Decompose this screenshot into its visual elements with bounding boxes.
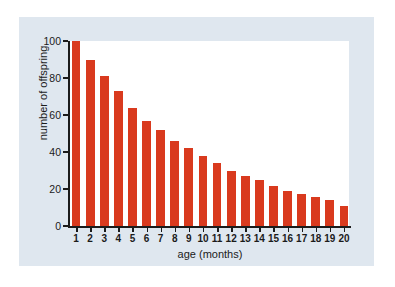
y-axis-tick — [63, 188, 68, 190]
x-axis-title: age (months) — [69, 248, 351, 260]
bar — [297, 194, 306, 226]
bar — [255, 180, 264, 226]
bar — [199, 156, 208, 226]
bar — [283, 191, 292, 226]
x-axis-tick — [104, 227, 106, 232]
y-axis-tick-label: 0 — [31, 220, 61, 232]
x-axis-tick — [330, 227, 332, 232]
x-axis-line — [69, 226, 351, 228]
x-axis-tick — [316, 227, 318, 232]
y-axis-tick — [63, 225, 68, 227]
bar — [325, 200, 334, 226]
bar — [213, 163, 222, 226]
y-axis-tick — [63, 40, 68, 42]
bar-series — [69, 41, 351, 226]
bar — [170, 141, 179, 226]
x-axis-tick — [217, 227, 219, 232]
chart-figure: 020406080100 123456789101112131415161718… — [19, 17, 374, 266]
y-axis-tick — [63, 77, 68, 79]
x-axis-tick — [118, 227, 120, 232]
x-axis-tick — [90, 227, 92, 232]
x-axis-tick — [245, 227, 247, 232]
bar — [72, 41, 81, 226]
bar — [86, 60, 95, 227]
y-axis-title: number of offspring — [37, 13, 49, 173]
x-axis-tick — [161, 227, 163, 232]
x-axis-tick — [259, 227, 261, 232]
x-axis-tick — [273, 227, 275, 232]
x-axis-tick-label: 20 — [334, 233, 354, 244]
bar — [114, 91, 123, 226]
x-axis-tick — [132, 227, 134, 232]
bar — [340, 206, 349, 226]
bar — [184, 148, 193, 226]
bar — [269, 186, 278, 226]
x-axis-tick — [175, 227, 177, 232]
bar — [156, 130, 165, 226]
bar — [311, 197, 320, 226]
bar — [128, 108, 137, 226]
x-axis-tick — [76, 227, 78, 232]
bar — [100, 76, 109, 226]
bar — [142, 121, 151, 226]
bar — [227, 171, 236, 227]
x-axis-tick — [302, 227, 304, 232]
x-axis-tick — [231, 227, 233, 232]
x-axis-tick — [189, 227, 191, 232]
y-axis-tick — [63, 114, 68, 116]
y-axis-tick-label: 20 — [31, 183, 61, 195]
bar — [241, 176, 250, 226]
x-axis-tick — [288, 227, 290, 232]
x-axis-tick — [203, 227, 205, 232]
x-axis-tick — [147, 227, 149, 232]
x-axis-tick — [344, 227, 346, 232]
y-axis-tick — [63, 151, 68, 153]
